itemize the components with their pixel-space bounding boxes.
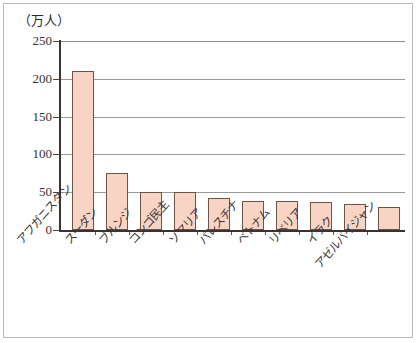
y-tick-label: 200 [33, 71, 53, 87]
y-tick-label: 250 [33, 33, 53, 49]
bar-9 [378, 207, 400, 230]
chart-frame: （万人） 250 200 150 100 50 0 [3, 3, 413, 338]
y-tick-label: 0 [46, 222, 53, 238]
y-tick-label: 100 [33, 146, 53, 162]
y-axis-tick-labels: 250 200 150 100 50 0 [4, 4, 52, 343]
y-tick-label: 150 [33, 109, 53, 125]
